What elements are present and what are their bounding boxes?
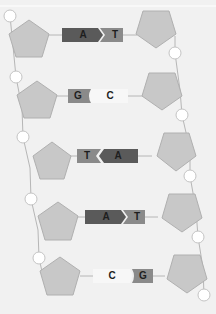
sugar-right-2 [142, 73, 182, 110]
phosphate-right-2 [176, 109, 188, 121]
base-label: C [102, 270, 122, 282]
sugar-right-1 [136, 11, 176, 48]
base-label: T [127, 211, 147, 223]
base-label: C [100, 90, 120, 102]
base-label: T [77, 150, 97, 162]
base-label: A [108, 150, 128, 162]
phosphate-right-1 [169, 47, 181, 59]
base-label: G [133, 270, 153, 282]
phosphate-right-4 [192, 231, 204, 243]
phosphate-right-3 [184, 170, 196, 182]
base-label: A [96, 211, 116, 223]
sugar-left-4 [38, 202, 78, 240]
phosphate-left-5 [33, 252, 45, 264]
sugar-left-3 [33, 142, 71, 179]
sugar-right-4 [162, 194, 202, 232]
sugar-left-1 [9, 20, 49, 57]
phosphate-right-5 [198, 289, 210, 301]
sugar-right-5 [167, 255, 207, 293]
phosphate-left-4 [25, 193, 37, 205]
base-label: A [73, 29, 93, 41]
sugar-left-2 [17, 81, 57, 118]
base-label: G [68, 90, 88, 102]
base-label: T [105, 29, 125, 41]
phosphate-left-2 [10, 71, 22, 83]
sugar-left-5 [40, 257, 80, 295]
dna-diagram: A T G C T A A T C G [0, 0, 216, 314]
phosphate-left-3 [17, 131, 29, 143]
phosphate-left-1 [4, 10, 16, 22]
